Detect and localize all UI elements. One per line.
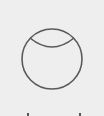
caption-mark: [79, 113, 81, 116]
caption-mark: [27, 113, 29, 116]
circle-diagram: [0, 0, 104, 116]
inner-arc: [30, 38, 74, 47]
caption-cutoff: [0, 112, 104, 116]
diagram-canvas: [0, 0, 104, 116]
